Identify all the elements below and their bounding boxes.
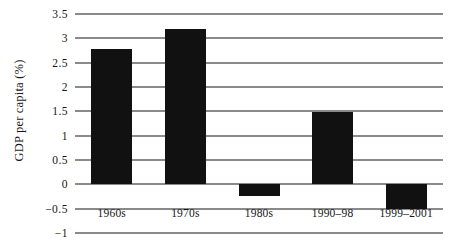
y-tick-label: 2.5 [52, 57, 68, 69]
bar [91, 49, 132, 184]
y-axis-tick-labels: 3.532.521.510.50−0.5−1 [34, 0, 70, 252]
y-tick-label: −0.5 [45, 203, 68, 215]
bars-group [75, 14, 443, 233]
y-tick-label: 2 [62, 81, 68, 93]
x-tick-label: 1980s [245, 207, 273, 219]
x-tick-label: 1990–98 [312, 207, 354, 219]
bar [312, 112, 353, 184]
x-tick-label: 1999–2001 [379, 207, 433, 219]
x-tick-label: 1960s [98, 207, 126, 219]
y-tick-label: 3 [62, 32, 68, 44]
y-axis-title-label: GDP per capita (%) [12, 59, 27, 161]
bar [165, 29, 206, 185]
bar-chart: GDP per capita (%) 3.532.521.510.50−0.5−… [0, 0, 464, 252]
bar [239, 184, 280, 196]
y-tick-label: 3.5 [52, 8, 68, 20]
bar [386, 184, 427, 208]
y-tick-label: −1 [55, 227, 68, 239]
x-axis-tick-labels: 1960s1970s1980s1990–981999–2001 [75, 207, 443, 229]
y-tick-label: 0 [62, 178, 68, 190]
y-axis-title: GDP per capita (%) [0, 0, 38, 220]
y-tick-label: 0.5 [52, 154, 68, 166]
y-tick-label: 1 [62, 130, 68, 142]
y-tick-label: 1.5 [52, 105, 68, 117]
x-tick-label: 1970s [171, 207, 199, 219]
plot-area [75, 14, 443, 233]
